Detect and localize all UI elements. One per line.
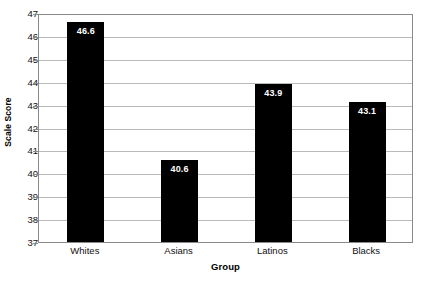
bar-value-label: 43.1 [349,106,386,116]
bar[interactable]: 40.6 [161,160,198,242]
y-axis-tick-mark [33,243,38,244]
y-axis-ticks: 4746454443424140393837 [0,14,38,243]
x-axis-tick-label: Latinos [226,245,320,257]
x-axis-tick-labels: WhitesAsiansLatinosBlacks [38,245,413,261]
bar-chart-figure: Scale Score 4746454443424140393837 46.64… [0,0,426,286]
x-axis-title: Group [38,261,413,272]
bar[interactable]: 43.9 [255,84,292,242]
x-axis-tick-label: Blacks [319,245,413,257]
bar[interactable]: 46.6 [67,22,104,242]
x-axis-tick-label: Asians [132,245,226,257]
bar-value-label: 43.9 [255,88,292,98]
x-axis-tick-label: Whites [38,245,132,257]
plot-area: 46.640.643.943.1 [38,14,413,243]
bar-value-label: 40.6 [161,164,198,174]
bar-value-label: 46.6 [67,26,104,36]
bar[interactable]: 43.1 [349,102,386,242]
